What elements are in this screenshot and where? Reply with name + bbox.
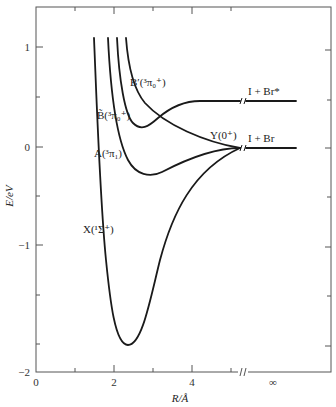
bottom-ticks	[75, 365, 231, 372]
x-tick-0: 0	[33, 376, 39, 388]
top-ticks	[75, 7, 231, 14]
x-axis-title: R/Å	[171, 392, 189, 404]
label-Y-state: Y(0⁺)	[210, 129, 237, 142]
y-tick-0: 0	[25, 141, 31, 153]
x-tick-4: 4	[189, 376, 195, 388]
label-A-state: A(³π₁)	[94, 147, 122, 160]
label-Bprime-state: B′(³π₀⁺)	[130, 76, 166, 89]
x-tick-2: 2	[111, 376, 117, 388]
left-ticks	[36, 47, 43, 344]
potential-energy-chart: 0 2 4 ∞ 1 0 −1 −2 R/Å E/eV B′(³π₀⁺) B̃(³…	[0, 0, 336, 407]
y-axis-title: E/eV	[3, 184, 15, 208]
label-asymptote-upper: I + Br*	[248, 85, 280, 97]
x-axis-break	[238, 368, 248, 376]
y-tick-minus1: −1	[18, 239, 30, 251]
label-Btilde-state: B̃(³π₀⁺)	[97, 109, 130, 122]
curve-X-state	[94, 38, 240, 345]
x-tick-infinity: ∞	[269, 376, 277, 388]
plot-frame	[36, 7, 331, 372]
label-X-state: X(¹Σ⁺)	[83, 223, 114, 236]
y-tick-minus2: −2	[18, 366, 30, 378]
asymptote-breaks	[240, 98, 246, 151]
label-asymptote-lower: I + Br	[248, 132, 275, 144]
y-tick-1: 1	[25, 41, 31, 53]
right-ticks	[325, 50, 331, 346]
